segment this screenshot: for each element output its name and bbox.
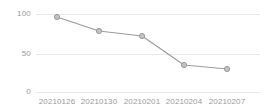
x-axis: 20210126 20210130 20210201 20210204 2021…: [0, 98, 264, 112]
line-chart: 100 50 0 20210126 20210130 20210201 2021…: [0, 0, 264, 112]
data-point-marker: [139, 33, 144, 38]
x-tick-label-4: 20210207: [209, 98, 245, 106]
x-tick-label-0: 20210126: [39, 98, 75, 106]
data-point-marker: [181, 62, 186, 67]
data-point-marker: [54, 14, 59, 19]
data-point-marker: [96, 28, 101, 33]
x-tick-label-2: 20210201: [124, 98, 160, 106]
data-point-marker: [224, 66, 229, 71]
x-tick-label-3: 20210204: [166, 98, 202, 106]
x-tick-label-1: 20210130: [81, 98, 117, 106]
data-series-layer: [0, 0, 264, 112]
series-line: [57, 17, 227, 69]
